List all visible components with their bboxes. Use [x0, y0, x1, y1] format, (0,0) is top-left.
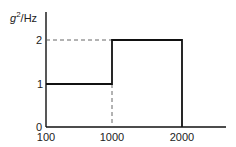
y-tick-2: 2 [36, 34, 42, 46]
x-tick-2000: 2000 [170, 131, 194, 143]
psd-step-line [46, 40, 182, 127]
y-tick-1: 1 [37, 78, 43, 90]
x-tick-100: 100 [37, 131, 55, 143]
y-axis-label: g2/Hz [10, 10, 37, 24]
x-tick-1000: 1000 [100, 131, 124, 143]
chart-svg: g2/Hz 0 1 2 100 1000 2000 [0, 0, 236, 147]
